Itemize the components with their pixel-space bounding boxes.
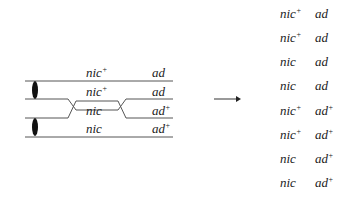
product-nic-2: nic+ <box>280 31 301 45</box>
product-nic-8: nic <box>280 176 296 190</box>
product-ad-5: ad+ <box>315 104 333 118</box>
product-ad-7: ad+ <box>315 152 333 166</box>
left-label-nic-3: nic <box>86 104 102 118</box>
centromere-icon-top <box>32 81 38 99</box>
product-nic-3: nic <box>280 55 296 69</box>
left-label-nic-1: nic+ <box>86 66 107 80</box>
centromere-icon-bottom <box>32 118 38 136</box>
product-nic-4: nic <box>280 79 296 93</box>
left-label-nic-4: nic <box>86 122 102 136</box>
left-label-ad-2: ad <box>152 85 165 99</box>
product-ad-8: ad+ <box>315 176 333 190</box>
left-label-ad-3: ad+ <box>152 104 170 118</box>
product-nic-1: nic+ <box>280 7 301 21</box>
product-nic-7: nic <box>280 152 296 166</box>
product-nic-6: nic+ <box>280 128 301 142</box>
product-ad-1: ad <box>315 7 328 21</box>
product-ad-2: ad <box>315 31 328 45</box>
product-ad-3: ad <box>315 55 328 69</box>
product-nic-5: nic+ <box>280 104 301 118</box>
product-ad-6: ad+ <box>315 128 333 142</box>
left-label-ad-4: ad+ <box>152 122 170 136</box>
left-label-nic-2: nic+ <box>86 85 107 99</box>
product-ad-4: ad <box>315 79 328 93</box>
left-label-ad-1: ad <box>152 66 165 80</box>
right-arrow-icon <box>214 96 241 102</box>
